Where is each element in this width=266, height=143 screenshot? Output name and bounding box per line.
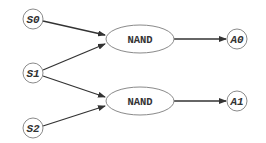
output-node-a1: A1 <box>227 91 247 111</box>
edge-s1-nand1 <box>43 76 105 97</box>
input-label-s2: S2 <box>26 123 40 135</box>
edge-s1-nand0 <box>43 44 105 70</box>
output-label-a1: A1 <box>229 96 243 108</box>
input-node-s0: S0 <box>23 9 43 29</box>
input-node-s2: S2 <box>23 118 43 138</box>
input-label-s0: S0 <box>26 14 40 26</box>
edge-s0-nand0 <box>43 21 105 35</box>
circuit-diagram: S0 S1 S2 NAND NAND A0 A1 <box>0 0 266 143</box>
input-label-s1: S1 <box>26 68 39 80</box>
gate-node-nand-0: NAND <box>106 25 174 53</box>
edge-s2-nand1 <box>43 106 105 126</box>
gate-label-nand-1: NAND <box>127 96 152 108</box>
gate-label-nand-0: NAND <box>127 34 152 46</box>
output-node-a0: A0 <box>227 29 247 49</box>
output-label-a0: A0 <box>229 34 244 46</box>
gate-node-nand-1: NAND <box>106 87 174 115</box>
input-node-s1: S1 <box>23 63 43 83</box>
